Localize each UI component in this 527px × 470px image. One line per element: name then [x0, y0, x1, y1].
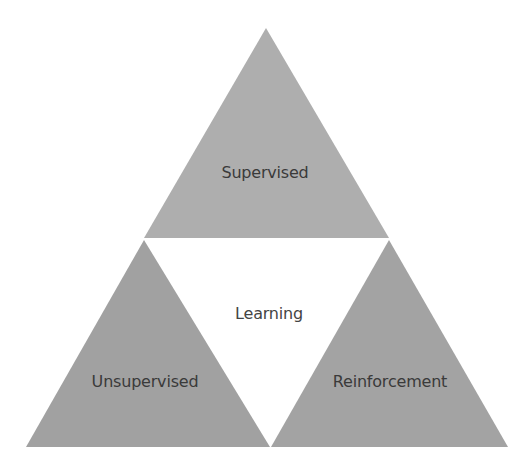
learning-types-diagram: [0, 0, 527, 470]
reinforcement-triangle: [271, 240, 508, 447]
unsupervised-label: Unsupervised: [92, 372, 199, 392]
reinforcement-label: Reinforcement: [333, 372, 447, 392]
supervised-label: Supervised: [221, 163, 308, 183]
learning-center-label: Learning: [235, 304, 303, 324]
supervised-triangle: [144, 28, 389, 238]
unsupervised-triangle: [26, 240, 270, 447]
